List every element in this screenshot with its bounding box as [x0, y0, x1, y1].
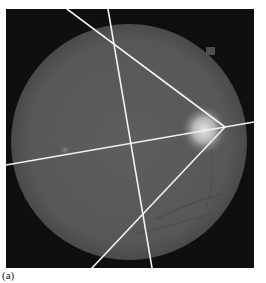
figure-caption: (a) [2, 269, 14, 281]
fundus-image [6, 9, 254, 268]
fundus-image-panel [6, 9, 254, 268]
